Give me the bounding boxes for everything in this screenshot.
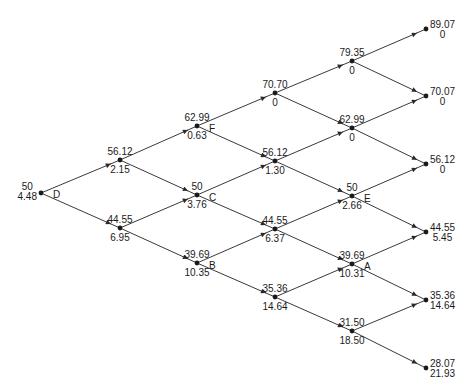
node-price: 56.12 [262,147,287,158]
leaf-node-label: 70.070 [430,87,455,107]
node-value: 0 [430,165,455,175]
arrowhead-icon [415,363,417,364]
node-value: 1.30 [265,165,284,176]
tree-edges-layer [0,0,471,392]
node-price: 62.99 [339,114,364,125]
node-tag: B [209,260,216,271]
tree-edge [352,164,426,196]
node-value: 5.45 [430,233,455,243]
arrowhead-icon [341,191,343,192]
node-value: 0 [349,65,355,76]
node-dot-icon [350,194,355,199]
leaf-node-label: 44.555.45 [430,223,455,243]
node-value: 2.15 [110,164,129,175]
leaf-node-label: 89.070 [430,20,455,40]
arrowhead-icon [415,159,417,160]
node-value: 0 [272,97,278,108]
node-dot-icon [273,227,278,232]
node-dot-icon [273,91,278,96]
node-dot-icon [273,159,278,164]
node-tag: F [209,123,215,134]
node-price: 56.12 [107,146,132,157]
node-value: 14.64 [262,301,287,312]
binomial-tree-diagram: 504.48D56.122.1544.556.9562.990.63F503.7… [0,0,471,392]
arrowhead-icon [415,91,417,92]
node-value: 14.64 [430,301,455,311]
arrowhead-icon [415,295,417,296]
leaf-node-label: 56.120 [430,155,455,175]
node-price: 50 [191,181,202,192]
node-value: 0 [349,132,355,143]
node-tag: A [364,261,371,272]
node-value: 21.93 [430,369,455,379]
node-dot-icon [350,126,355,131]
tree-edge [352,128,426,164]
node-value: 4.48 [18,192,37,202]
node-dot-icon [195,124,200,129]
arrowhead-icon [415,304,417,305]
leaf-node-label: 28.0721.93 [430,359,455,379]
node-dot-icon [424,162,429,167]
node-value: 3.76 [187,199,206,210]
node-dot-icon [118,158,123,163]
node-price: 39.69 [184,249,209,260]
node-price: 44.55 [107,214,132,225]
node-price: 79.35 [339,47,364,58]
node-price: 70.70 [262,79,287,90]
node-tag: E [364,193,371,204]
arrowhead-icon [415,33,417,34]
tree-edge [352,61,426,96]
node-price: 50 [346,182,357,193]
node-dot-icon [424,230,429,235]
node-dot-icon [39,191,44,196]
node-value: 18.50 [339,335,364,346]
node-price: 62.99 [184,112,209,123]
node-dot-icon [424,94,429,99]
node-dot-icon [350,59,355,64]
node-tag: C [209,192,216,203]
node-value: 10.35 [184,267,209,278]
node-price: 31.50 [339,317,364,328]
arrowhead-icon [415,168,417,169]
tree-edge [275,161,352,196]
node-dot-icon [118,226,123,231]
tree-edge [197,161,275,195]
node-value: 10.31 [339,268,364,279]
leaf-node-label: 35.3614.64 [430,291,455,311]
node-dot-icon [350,262,355,267]
arrowhead-icon [341,65,343,66]
node-value: 0.63 [187,130,206,141]
node-dot-icon [424,366,429,371]
node-dot-icon [350,329,355,334]
arrowhead-icon [415,236,417,237]
node-value: 0 [430,97,455,107]
node-value: 6.95 [110,232,129,243]
node-dot-icon [424,298,429,303]
node-value: 0 [430,30,455,40]
node-dot-icon [424,27,429,32]
arrowhead-icon [186,190,188,191]
node-price: 35.36 [262,283,287,294]
arrowhead-icon [415,100,417,101]
node-dot-icon [273,295,278,300]
node-tag: D [53,189,60,200]
arrowhead-icon [264,97,266,98]
arrowhead-icon [415,227,417,228]
node-dot-icon [195,261,200,266]
root-node-label: 504.48 [18,182,37,202]
node-value: 6.37 [265,233,284,244]
node-price: 39.69 [339,250,364,261]
node-price: 44.55 [262,215,287,226]
node-value: 2.66 [342,200,361,211]
node-dot-icon [195,193,200,198]
arrowhead-icon [341,132,343,133]
tree-edge [120,160,197,195]
